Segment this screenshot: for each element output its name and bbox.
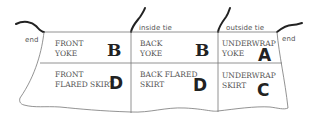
front-yoke-label-2: YOKE [54,49,77,58]
back-yoke-letter: B [195,40,209,60]
front-yoke-label-1: FRONT [55,39,84,48]
skirt-pattern-diagram: end end inside tie outside tie FRONT YOK… [0,0,320,119]
back-yoke-label-2: YOKE [139,49,162,58]
right-outer-edge [277,32,288,108]
left-end-tie [16,22,44,32]
front-skirt-letter: D [109,73,123,93]
end-label-right: end [282,35,296,43]
back-skirt-label-1: BACK FLARED [140,70,197,79]
underwrap-skirt-letter: C [257,80,269,100]
right-end-tie [277,23,302,32]
back-skirt-letter: D [193,75,207,95]
front-yoke-letter: B [107,40,121,60]
underwrap-skirt-label-2: SKIRT [222,81,246,90]
front-skirt-label-2: FLARED SKIRT [55,80,114,89]
back-skirt-label-2: SKIRT [140,80,164,89]
front-skirt-label-1: FRONT [55,70,84,79]
underwrap-yoke-letter: A [258,45,272,65]
outside-tie-label: outside tie [226,24,264,32]
underwrap-skirt-label-1: UNDERWRAP [222,71,276,80]
underwrap-yoke-label-2: YOKE [221,49,244,58]
hem-line [24,105,288,112]
back-yoke-label-1: BACK [140,39,163,48]
inside-tie-label: inside tie [139,24,172,32]
end-label-left: end [25,36,39,44]
